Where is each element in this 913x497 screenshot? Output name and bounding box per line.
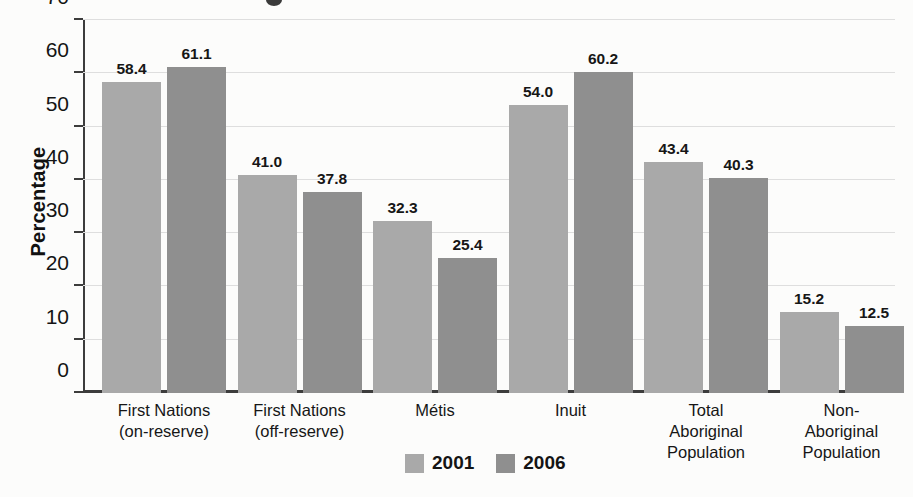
legend-item-2006: 2006 (496, 452, 565, 474)
legend-label-2001: 2001 (432, 452, 474, 474)
category-label-3: Inuit (496, 400, 646, 421)
category-label-line: Inuit (496, 400, 646, 421)
plot-area: 010203040506070 58.461.141.037.832.325.4… (83, 20, 895, 393)
bar-value-label: 40.3 (723, 156, 753, 174)
category-label-1: First Nations(off-reserve) (225, 400, 375, 442)
legend: 2001 2006 (405, 452, 566, 474)
bar-2001-2: 32.3 (373, 221, 432, 393)
y-tick-label-10: 10 (46, 304, 69, 328)
category-label-line: Population (767, 442, 913, 463)
category-label-5: Non-AboriginalPopulation (767, 400, 913, 463)
category-label-line: Non- (767, 400, 913, 421)
category-label-2: Métis (360, 400, 510, 421)
cropped-title-artifact (266, 0, 282, 6)
bar-value-label: 32.3 (387, 199, 417, 217)
y-tick-label-40: 40 (46, 144, 69, 168)
legend-label-2006: 2006 (523, 452, 565, 474)
bar-2001-3: 54.0 (509, 105, 568, 393)
bar-value-label: 58.4 (116, 60, 146, 78)
legend-swatch-2001-icon (405, 454, 424, 473)
bar-value-label: 25.4 (452, 236, 482, 254)
bar-value-label: 60.2 (588, 50, 618, 68)
bar-value-label: 43.4 (658, 140, 688, 158)
y-tick-label-60: 60 (46, 38, 69, 62)
bar-2006-4: 40.3 (709, 178, 768, 393)
y-tick-60 (74, 71, 83, 73)
legend-item-2001: 2001 (405, 452, 474, 474)
bar-2006-2: 25.4 (438, 258, 497, 393)
bar-2001-1: 41.0 (238, 175, 297, 393)
bar-value-label: 41.0 (252, 153, 282, 171)
category-label-4: TotalAboriginalPopulation (631, 400, 781, 463)
bar-2001-5: 15.2 (780, 312, 839, 393)
y-tick-10 (74, 338, 83, 340)
y-tick-label-20: 20 (46, 251, 69, 275)
category-label-line: Aboriginal (631, 421, 781, 442)
bar-2001-4: 43.4 (644, 162, 703, 393)
category-label-line: Population (631, 442, 781, 463)
bar-value-label: 54.0 (523, 83, 553, 101)
y-tick-40 (74, 178, 83, 180)
category-label-line: First Nations (89, 400, 239, 421)
y-tick-label-0: 0 (57, 358, 69, 382)
y-tick-50 (74, 125, 83, 127)
bar-2006-5: 12.5 (845, 326, 904, 393)
bar-chart: Percentage 010203040506070 58.461.141.03… (0, 0, 913, 497)
bar-value-label: 12.5 (859, 304, 889, 322)
y-tick-label-70: 70 (46, 0, 69, 9)
category-label-line: Aboriginal (767, 421, 913, 442)
gridline-70 (83, 19, 895, 20)
category-label-line: Métis (360, 400, 510, 421)
bar-2006-3: 60.2 (574, 72, 633, 393)
bar-value-label: 15.2 (794, 290, 824, 308)
y-tick-30 (74, 231, 83, 233)
legend-swatch-2006-icon (496, 454, 515, 473)
bar-value-label: 61.1 (181, 45, 211, 63)
y-tick-label-50: 50 (46, 91, 69, 115)
bar-2006-1: 37.8 (303, 192, 362, 393)
y-tick-label-30: 30 (46, 198, 69, 222)
y-axis-line (83, 20, 85, 393)
y-tick-70 (74, 18, 83, 20)
y-tick-20 (74, 284, 83, 286)
category-label-line: Total (631, 400, 781, 421)
category-label-0: First Nations(on-reserve) (89, 400, 239, 442)
bar-2001-0: 58.4 (102, 82, 161, 393)
bar-value-label: 37.8 (317, 170, 347, 188)
bar-2006-0: 61.1 (167, 67, 226, 393)
category-label-line: First Nations (225, 400, 375, 421)
y-tick-0 (74, 391, 83, 393)
category-label-line: (off-reserve) (225, 421, 375, 442)
category-label-line: (on-reserve) (89, 421, 239, 442)
